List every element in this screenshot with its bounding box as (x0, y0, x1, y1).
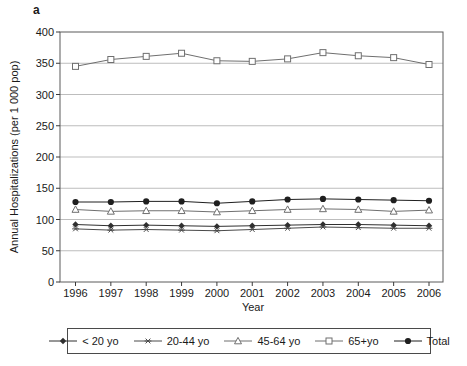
x-tick-label: 1996 (63, 287, 87, 299)
series-open-square (73, 50, 433, 70)
diamond-icon (284, 222, 290, 228)
square-icon (73, 63, 79, 69)
legend-marker (393, 336, 423, 346)
square-icon (285, 56, 291, 62)
square-icon (426, 62, 432, 68)
legend-item: Total (393, 335, 450, 347)
circle-icon (143, 198, 149, 204)
asterisk-icon (144, 339, 151, 344)
legend-item-label: 45-64 yo (257, 335, 300, 347)
x-tick-label: 2002 (275, 287, 299, 299)
legend-marker (314, 336, 344, 346)
square-icon (214, 58, 220, 64)
legend-item: 45-64 yo (223, 335, 300, 347)
circle-icon (355, 196, 361, 202)
x-tick-label: 2003 (311, 287, 335, 299)
square-icon (391, 55, 397, 61)
square-icon (108, 57, 114, 63)
circle-icon (320, 196, 326, 202)
circle-icon (214, 200, 220, 206)
circle-icon (391, 197, 397, 203)
diamond-icon (60, 338, 66, 344)
diamond-icon (390, 222, 396, 228)
square-icon (320, 50, 326, 56)
x-tick-label: 1998 (134, 287, 158, 299)
legend-marker (223, 336, 253, 346)
legend-item-label: 20-44 yo (167, 335, 210, 347)
x-axis-label: Year (242, 301, 264, 313)
y-tick-label: 100 (36, 214, 54, 226)
y-tick-label: 350 (36, 57, 54, 69)
x-tick-label: 2004 (346, 287, 370, 299)
x-tick-label: 1997 (99, 287, 123, 299)
square-icon (249, 58, 255, 64)
legend-item: < 20 yo (48, 335, 118, 347)
x-tick-label: 2005 (381, 287, 405, 299)
circle-icon (249, 198, 255, 204)
y-tick-label: 250 (36, 120, 54, 132)
y-tick-label: 300 (36, 89, 54, 101)
x-tick-label: 2006 (417, 287, 441, 299)
diamond-icon (355, 221, 361, 227)
circle-icon (285, 196, 291, 202)
y-axis-label: Annual Hospitalizations (per 1 000 pop) (8, 61, 20, 254)
square-icon (179, 50, 185, 56)
y-tick-label: 150 (36, 182, 54, 194)
triangle-icon (72, 206, 79, 212)
diamond-icon (249, 223, 255, 229)
y-tick-label: 0 (48, 276, 54, 288)
circle-icon (426, 198, 432, 204)
y-tick-label: 50 (42, 245, 54, 257)
legend-item-label: < 20 yo (82, 335, 118, 347)
legend-item-label: 65+yo (348, 335, 378, 347)
legend-item: 65+yo (314, 335, 378, 347)
legend-marker (133, 336, 163, 346)
circle-icon (178, 198, 184, 204)
circle-icon (404, 338, 410, 344)
series-open-triangle (72, 205, 433, 215)
chart-svg: 0501001502002503003504001996199719981999… (0, 0, 467, 366)
circle-icon (72, 199, 78, 205)
y-tick-label: 200 (36, 151, 54, 163)
y-tick-label: 400 (36, 26, 54, 38)
square-icon (143, 53, 149, 59)
legend-item: 20-44 yo (133, 335, 210, 347)
x-tick-label: 2001 (240, 287, 264, 299)
legend-item-label: Total (427, 335, 450, 347)
square-icon (326, 338, 332, 344)
figure: a 05010015020025030035040019961997199819… (0, 0, 467, 366)
x-tick-label: 2000 (205, 287, 229, 299)
square-icon (355, 53, 361, 59)
circle-icon (108, 199, 114, 205)
series-filled-circle (72, 196, 432, 207)
legend-marker (48, 336, 78, 346)
x-tick-label: 1999 (169, 287, 193, 299)
legend: < 20 yo20-44 yo45-64 yo65+yoTotal (67, 328, 431, 354)
